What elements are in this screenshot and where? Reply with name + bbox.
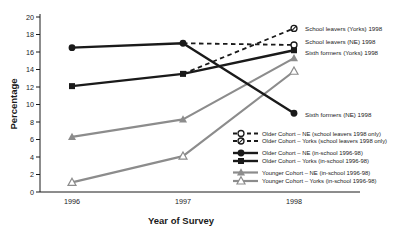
marker-filled-triangle: [290, 54, 298, 61]
marker-open-triangle: [290, 67, 298, 74]
legend-label: Younger Cohort – Yorks (in-school 1996-9…: [262, 178, 376, 184]
legend-label: Older Cohort – Yorks (in-school 1996-98): [262, 158, 369, 164]
marker-open-circle: [238, 131, 244, 137]
series-line-younger-cohort-yorks-in-school-1996-98: [72, 71, 294, 182]
y-tick-label: 0: [30, 188, 34, 197]
y-tick-label: 10: [26, 100, 34, 109]
y-tick-label: 6: [30, 135, 34, 144]
marker-filled-circle: [180, 40, 187, 47]
x-tick-label: 1998: [286, 197, 302, 206]
x-tick-label: 1996: [64, 197, 80, 206]
marker-filled-circle: [291, 110, 298, 117]
marker-open-circle: [291, 42, 297, 48]
legend-label: Younger Cohort – NE (in-school 1996-98): [262, 170, 370, 176]
y-tick-label: 14: [26, 65, 34, 74]
marker-filled-square: [238, 158, 244, 164]
series-line-older-cohort-yorks-in-school-1996-98: [72, 50, 294, 86]
x-axis-title: Year of Survey: [148, 215, 214, 226]
y-tick-label: 16: [26, 48, 34, 57]
annotation-label: School leavers (NE) 1998: [305, 38, 376, 45]
x-tick-label: 1997: [175, 197, 191, 206]
y-tick-label: 4: [30, 153, 34, 162]
y-tick-label: 20: [26, 13, 34, 22]
y-axis-title: Percentage: [8, 78, 19, 129]
marker-filled-square: [180, 71, 186, 77]
legend-label: Older Cohort – NE (in-school 1996-98): [262, 150, 363, 156]
marker-filled-circle: [69, 44, 76, 51]
series-line-older-cohort-ne-school-leavers-1998-only: [183, 43, 294, 45]
y-tick-label: 2: [30, 170, 34, 179]
series-line-older-cohort-ne-in-school-1996-98: [72, 43, 294, 113]
legend-label: Older Cohort – NE (school leavers 1998 o…: [262, 131, 381, 137]
y-tick-label: 8: [30, 118, 34, 127]
y-tick-label: 18: [26, 30, 34, 39]
annotation-label: Sixth formers (Yorks) 1998: [305, 49, 379, 56]
legend-label: Older Cohort – Yorks (school leavers 199…: [262, 138, 387, 144]
annotation-label: Sixth formers (NE) 1998: [305, 111, 372, 118]
annotation-label: School leavers (Yorks) 1998: [305, 25, 383, 32]
marker-filled-circle: [238, 150, 245, 157]
line-chart-figure: 02468101214161820199619971998School leav…: [0, 0, 399, 235]
marker-filled-square: [69, 83, 75, 89]
chart-canvas: 02468101214161820199619971998School leav…: [0, 0, 399, 235]
y-tick-label: 12: [26, 83, 34, 92]
